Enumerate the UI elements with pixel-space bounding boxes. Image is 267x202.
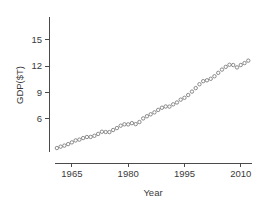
- x-axis-title: Year: [143, 187, 162, 198]
- x-tick-label-2010: 2010: [230, 168, 251, 179]
- data-point: [153, 111, 156, 114]
- data-point: [156, 108, 159, 111]
- data-point: [149, 113, 152, 116]
- data-point: [66, 142, 69, 145]
- data-point: [85, 135, 88, 138]
- y-axis-ticks: [45, 40, 49, 119]
- x-tick-label-1995: 1995: [174, 168, 195, 179]
- data-point: [247, 59, 250, 62]
- data-point: [172, 103, 175, 106]
- y-axis: 691215: [31, 17, 49, 152]
- data-point: [115, 126, 118, 129]
- data-point: [55, 146, 58, 149]
- data-point: [228, 63, 231, 66]
- y-axis-title: GDP($T): [14, 66, 25, 104]
- data-point: [175, 101, 178, 104]
- data-point: [119, 124, 122, 127]
- x-tick-label-1965: 1965: [61, 168, 82, 179]
- x-axis: 1965198019952010: [55, 163, 252, 179]
- data-point: [134, 122, 137, 125]
- data-point: [126, 123, 129, 126]
- data-point: [100, 130, 103, 133]
- gdp-scatter-chart: 691215 1965198019952010 Year GDP($T): [0, 0, 267, 202]
- data-point: [164, 105, 167, 108]
- data-point: [183, 96, 186, 99]
- data-point: [74, 139, 77, 142]
- data-series-gdp: [55, 59, 250, 150]
- data-point: [220, 68, 223, 71]
- y-tick-label-12: 12: [31, 60, 42, 71]
- y-tick-label-15: 15: [31, 34, 42, 45]
- y-tick-label-6: 6: [37, 113, 42, 124]
- data-point: [108, 130, 111, 133]
- data-point: [205, 79, 208, 82]
- data-point: [89, 135, 92, 138]
- x-tick-label-1980: 1980: [118, 168, 139, 179]
- data-point: [187, 93, 190, 96]
- y-axis-tick-labels: 691215: [31, 34, 42, 124]
- data-point: [243, 61, 246, 64]
- data-point: [209, 77, 212, 80]
- data-point: [141, 117, 144, 120]
- data-point: [217, 71, 220, 74]
- y-tick-label-9: 9: [37, 87, 42, 98]
- data-point: [198, 83, 201, 86]
- data-point: [168, 105, 171, 108]
- data-point: [130, 121, 133, 124]
- data-point: [224, 65, 227, 68]
- data-point: [63, 144, 66, 147]
- data-point: [145, 115, 148, 118]
- data-point: [138, 120, 141, 123]
- data-point: [213, 75, 216, 78]
- data-point: [93, 134, 96, 137]
- chart-canvas: 691215 1965198019952010 Year GDP($T): [0, 0, 267, 202]
- data-point: [235, 66, 238, 69]
- data-point: [160, 106, 163, 109]
- data-point: [78, 138, 81, 141]
- data-point: [111, 128, 114, 131]
- data-point: [70, 141, 73, 144]
- data-point: [96, 132, 99, 135]
- data-point: [239, 63, 242, 66]
- data-point: [104, 130, 107, 133]
- x-axis-ticks: [72, 163, 241, 167]
- data-point: [179, 98, 182, 101]
- data-point: [202, 79, 205, 82]
- data-point: [81, 136, 84, 139]
- data-point: [190, 90, 193, 93]
- data-point: [59, 145, 62, 148]
- x-axis-tick-labels: 1965198019952010: [61, 168, 251, 179]
- data-point: [232, 63, 235, 66]
- data-point: [123, 123, 126, 126]
- data-point: [194, 86, 197, 89]
